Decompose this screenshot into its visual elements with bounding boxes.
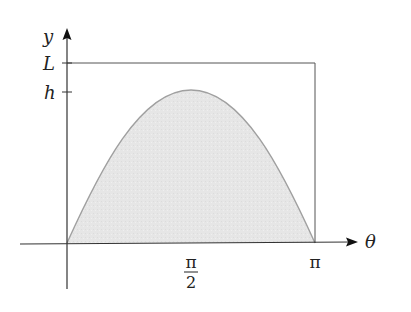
tick-label-h: h (44, 82, 56, 103)
y-axis-label: y (42, 26, 54, 47)
tick-label-L: L (42, 53, 55, 74)
tick-label-pi: π (309, 252, 320, 272)
area-diagram: y L h θ π 2 π (0, 0, 411, 312)
tick-label-pi-over-2-numerator: π (185, 252, 196, 272)
tick-label-pi-over-2-denominator: 2 (186, 273, 196, 292)
shaded-region (67, 90, 315, 243)
x-axis-label: θ (365, 231, 376, 252)
